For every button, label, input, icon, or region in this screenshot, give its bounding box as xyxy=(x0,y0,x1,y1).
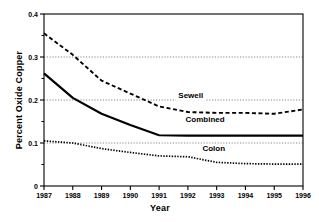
x-tick-label: 1996 xyxy=(295,192,311,199)
x-tick-label: 1991 xyxy=(151,192,167,199)
y-tick-label: 0 xyxy=(34,183,38,190)
series-paths-group xyxy=(44,33,303,164)
y-tick-label: 0.1 xyxy=(28,140,38,147)
series-line-colon xyxy=(44,141,303,164)
x-axis-ticks: 1987198819891990199119921993199419951996 xyxy=(36,186,311,199)
series-label-sewell: Sewell xyxy=(178,91,203,100)
gridlines-group xyxy=(44,57,303,143)
y-tick-label: 0.4 xyxy=(28,11,38,18)
x-tick-label: 1989 xyxy=(94,192,110,199)
y-axis-ticks: 00.10.20.30.4 xyxy=(28,11,44,190)
y-tick-label: 0.3 xyxy=(28,54,38,61)
x-tick-label: 1992 xyxy=(180,192,196,199)
x-tick-label: 1994 xyxy=(238,192,254,199)
line-chart-plot: 00.10.20.30.4 19871988198919901991199219… xyxy=(0,0,319,222)
series-label-combined: Combined xyxy=(186,115,225,124)
x-tick-label: 1988 xyxy=(65,192,81,199)
x-tick-label: 1993 xyxy=(209,192,225,199)
x-tick-label: 1995 xyxy=(266,192,282,199)
series-label-colon: Colon xyxy=(202,144,225,153)
series-line-sewell xyxy=(44,33,303,113)
x-tick-label: 1990 xyxy=(123,192,139,199)
chart-figure: Percent Oxide Copper Year 00.10.20.30.4 … xyxy=(0,0,319,222)
x-tick-label: 1987 xyxy=(36,192,52,199)
y-tick-label: 0.2 xyxy=(28,97,38,104)
series-line-combined xyxy=(44,73,303,135)
